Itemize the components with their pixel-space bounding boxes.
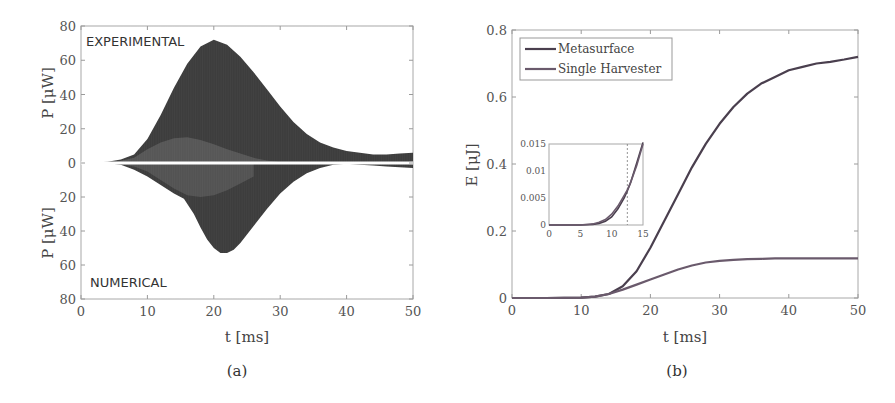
annotation-numerical: NUMERICAL	[90, 275, 168, 290]
legend-label-single-harvester: Single Harvester	[558, 62, 662, 76]
y-tick-label: 0.8	[486, 23, 507, 38]
y-tick-label-top: 0	[68, 156, 76, 171]
panel-b-energy-chart: 0102030405000.20.40.60.8 05101500.0050.0…	[463, 23, 866, 380]
y-axis-label-top: P [μW]	[39, 67, 57, 119]
x-tick-label: 10	[139, 304, 156, 319]
caption-a: (a)	[227, 362, 248, 380]
x-tick-label: 0	[508, 303, 516, 318]
y-tick-label-top: 80	[59, 19, 76, 34]
y-tick-label-top: 40	[59, 88, 76, 103]
inset-y-tick-label: 0.015	[520, 139, 546, 149]
y-tick-label-bottom: 80	[59, 292, 76, 307]
legend: Metasurface Single Harvester	[520, 38, 672, 80]
inset-x-tick-label: 10	[606, 229, 618, 239]
x-tick-label: 50	[405, 304, 422, 319]
annotation-experimental: EXPERIMENTAL	[86, 34, 185, 49]
x-tick-label: 50	[850, 303, 867, 318]
x-tick-label: 40	[338, 304, 355, 319]
x-tick-label: 0	[77, 304, 85, 319]
y-tick-label-top: 60	[59, 53, 76, 68]
caption-b: (b)	[666, 362, 687, 380]
inset-x-tick-label: 15	[637, 229, 649, 239]
x-tick-label: 20	[206, 304, 223, 319]
figure: 0102030405002040608020406080 EXPERIMENTA…	[0, 0, 895, 403]
y-tick-label-top: 20	[59, 122, 76, 137]
inset-y-tick-label: 0.005	[520, 193, 546, 203]
panel-a-power-chart: 0102030405002040608020406080 EXPERIMENTA…	[39, 19, 421, 380]
y-tick-label: 0.6	[486, 90, 507, 105]
y-axis-label-bottom: P [μW]	[39, 207, 57, 259]
y-tick-label-bottom: 40	[59, 224, 76, 239]
x-tick-label: 30	[272, 304, 289, 319]
legend-label-metasurface: Metasurface	[558, 42, 634, 56]
inset-y-tick-label: 0	[540, 220, 546, 230]
y-tick-label-bottom: 20	[59, 190, 76, 205]
x-tick-label: 30	[711, 303, 728, 318]
y-tick-label: 0.4	[486, 157, 507, 172]
y-tick-label: 0.2	[486, 224, 507, 239]
x-tick-label: 20	[642, 303, 659, 318]
inset-x-tick-label: 0	[546, 229, 552, 239]
x-axis-label-a: t [ms]	[225, 328, 269, 346]
inset-y-tick-label: 0.01	[526, 166, 546, 176]
y-tick-label-bottom: 60	[59, 258, 76, 273]
inset-x-tick-label: 5	[577, 229, 583, 239]
y-axis-label-b: E [μJ]	[463, 143, 481, 186]
y-tick-label: 0	[499, 291, 507, 306]
x-tick-label: 10	[573, 303, 590, 318]
x-tick-label: 40	[781, 303, 798, 318]
x-axis-label-b: t [ms]	[663, 328, 707, 346]
